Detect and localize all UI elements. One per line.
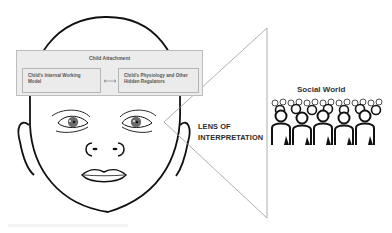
faint-caption-line [8, 224, 128, 227]
crowd-icon [0, 0, 392, 233]
